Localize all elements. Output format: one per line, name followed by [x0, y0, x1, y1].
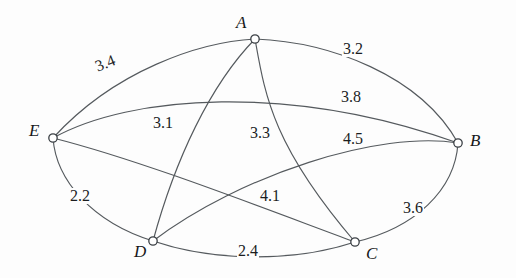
- graph-edge-ad: [153, 39, 255, 241]
- graph-diagram-canvas: ABCDE 3.43.23.13.33.82.24.14.53.62.4: [0, 0, 516, 278]
- node-label-b: B: [470, 132, 480, 149]
- graph-edge-bc: [355, 143, 458, 242]
- edge-weight-label-dc: 2.4: [237, 243, 259, 259]
- edge-weight-label-ec: 4.1: [259, 188, 281, 204]
- edges-group: [53, 39, 458, 257]
- graph-node-b[interactable]: [454, 139, 462, 147]
- graph-node-e[interactable]: [49, 134, 57, 142]
- node-label-a: A: [236, 14, 246, 31]
- edge-weight-label-bc: 3.6: [402, 200, 424, 216]
- graph-node-d[interactable]: [149, 237, 157, 245]
- graph-edge-bd: [153, 141, 458, 241]
- edge-weight-label-ed: 2.2: [69, 188, 91, 204]
- edge-weight-label-eb: 3.8: [340, 89, 362, 105]
- edge-weight-label-ad: 3.1: [152, 115, 174, 131]
- edge-weight-label-ac: 3.3: [249, 125, 271, 141]
- graph-node-c[interactable]: [351, 238, 359, 246]
- node-label-d: D: [134, 243, 146, 260]
- graph-edge-ed: [53, 138, 153, 241]
- graph-node-a[interactable]: [251, 35, 259, 43]
- edge-weight-label-bd: 4.5: [342, 131, 364, 147]
- edge-weight-label-ab: 3.2: [342, 41, 364, 57]
- node-label-e: E: [29, 122, 39, 139]
- node-label-c: C: [366, 245, 377, 262]
- graph-edge-ec: [53, 138, 355, 242]
